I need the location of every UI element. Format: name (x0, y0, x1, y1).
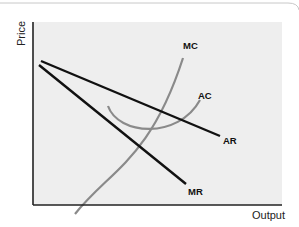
plot-area (33, 22, 282, 205)
ar-label: AR (223, 135, 237, 146)
x-axis-label: Output (252, 209, 285, 221)
ac-label: AC (198, 90, 212, 101)
diagram-frame: Price Output MC AC AR MR (0, 0, 299, 227)
mr-label: MR (188, 186, 203, 197)
y-axis-label: Price (15, 21, 27, 46)
top-border (0, 3, 299, 10)
diagram-canvas (0, 0, 299, 227)
mc-label: MC (183, 40, 198, 51)
